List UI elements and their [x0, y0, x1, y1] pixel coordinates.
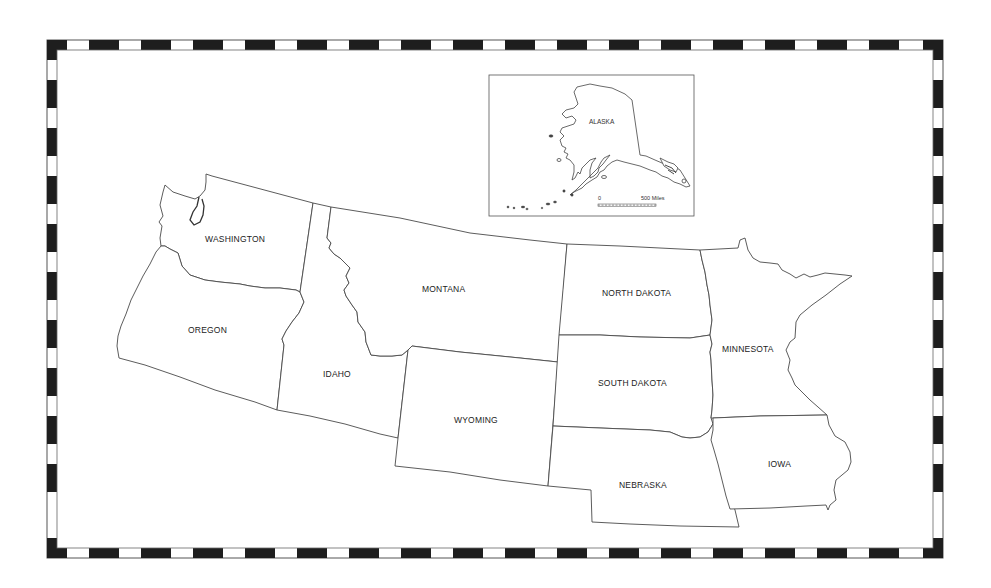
alaska-island [546, 203, 550, 205]
alaska-island [571, 194, 573, 196]
frame-block [47, 368, 57, 396]
alaska-island [549, 135, 553, 137]
scale-end-label: 500 Miles [641, 195, 665, 201]
frame-block [869, 548, 899, 558]
label-iowa: IOWA [768, 459, 791, 469]
frame-block [89, 40, 119, 50]
frame-block [47, 176, 57, 204]
frame-block [47, 272, 57, 300]
frame-block [933, 368, 943, 396]
frame-block [505, 548, 535, 558]
frame-block [47, 80, 57, 108]
label-washington: WASHINGTON [205, 234, 265, 244]
frame-block [817, 40, 847, 50]
frame-block [765, 548, 795, 558]
frame-block [141, 40, 171, 50]
frame-block [349, 548, 379, 558]
label-oregon: OREGON [188, 325, 227, 335]
frame-block [933, 272, 943, 300]
alaska-island [541, 207, 543, 209]
frame-block [933, 416, 943, 444]
frame-block [609, 40, 639, 50]
frame-block [47, 416, 57, 444]
frame-block [661, 548, 691, 558]
frame-corner [933, 40, 943, 60]
frame-block [297, 40, 327, 50]
label-north-dakota: NORTH DAKOTA [602, 288, 671, 298]
frame-block [47, 464, 57, 492]
label-montana: MONTANA [422, 284, 465, 294]
label-nebraska: NEBRASKA [619, 480, 667, 490]
frame-block [557, 548, 587, 558]
label-wyoming: WYOMING [454, 415, 498, 425]
alaska-island [526, 208, 528, 210]
frame-block [933, 176, 943, 204]
alaska-island [507, 206, 509, 208]
frame-block [47, 128, 57, 156]
frame-block [869, 40, 899, 50]
frame-block [817, 548, 847, 558]
frame-block [453, 40, 483, 50]
frame-block [47, 224, 57, 252]
frame-corner [47, 40, 57, 60]
frame-block [557, 40, 587, 50]
frame-block [505, 40, 535, 50]
alaska-island [602, 176, 607, 179]
frame-block [609, 548, 639, 558]
frame-block [933, 320, 943, 348]
alaska-island [521, 206, 525, 208]
frame-block [89, 548, 119, 558]
alaska-island [513, 207, 515, 209]
alaska-island [682, 179, 686, 183]
frame-block [141, 548, 171, 558]
frame-block [933, 224, 943, 252]
alaska-island [557, 159, 561, 162]
frame-block [453, 548, 483, 558]
frame-block [47, 320, 57, 348]
alaska-island [554, 201, 557, 203]
frame-block [661, 40, 691, 50]
frame-block [713, 548, 743, 558]
frame-block [349, 40, 379, 50]
label-south-dakota: SOUTH DAKOTA [598, 378, 667, 388]
alaska-island [563, 190, 565, 192]
frame-block [765, 40, 795, 50]
frame-corner [47, 538, 57, 558]
frame-block [401, 40, 431, 50]
frame-block [933, 128, 943, 156]
frame-block [193, 548, 223, 558]
label-idaho: IDAHO [323, 369, 351, 379]
map: WASHINGTON OREGON IDAHO MONTANA WYOMING … [0, 0, 991, 588]
frame-block [933, 464, 943, 492]
frame-corner [933, 538, 943, 558]
frame-block [297, 548, 327, 558]
frame-block [245, 40, 275, 50]
label-alaska: ALASKA [589, 118, 615, 125]
label-minnesota: MINNESOTA [722, 344, 774, 354]
frame-block [933, 80, 943, 108]
frame-block [245, 548, 275, 558]
alaska-inset: ALASKA 0 500 Miles [489, 75, 694, 216]
frame-block [401, 548, 431, 558]
frame-block [713, 40, 743, 50]
frame-block [193, 40, 223, 50]
scale-start-label: 0 [598, 195, 601, 201]
